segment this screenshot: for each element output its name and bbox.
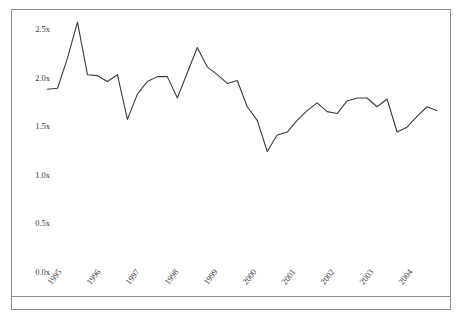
chart-figure: 2.5x 2.0x 1.5x 1.0x 0.5x 0.0x 1995 1996 … (0, 0, 465, 319)
y-tick-label-0.0x: 0.0x (20, 267, 50, 277)
plot-frame (11, 9, 451, 310)
y-tick-label-1.0x: 1.0x (20, 170, 50, 180)
y-tick-label-2.0x: 2.0x (20, 73, 50, 83)
figure-top-caption (14, 0, 434, 3)
y-tick-label-0.5x: 0.5x (20, 218, 50, 228)
x-axis-line (12, 296, 450, 297)
y-tick-label-2.5x: 2.5x (20, 24, 50, 34)
y-tick-label-1.5x: 1.5x (20, 121, 50, 131)
